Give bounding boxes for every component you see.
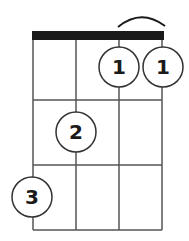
nut (32, 31, 164, 40)
barre-arc (118, 17, 165, 27)
chord-diagram: 1 1 2 3 (0, 0, 189, 241)
finger-dot: 2 (56, 112, 96, 152)
finger-dot: 1 (99, 47, 139, 87)
frets (33, 100, 162, 230)
finger-label: 3 (25, 185, 39, 209)
finger-label: 1 (156, 55, 170, 79)
finger-label: 1 (112, 55, 126, 79)
finger-label: 2 (69, 120, 83, 144)
finger-dot: 3 (12, 177, 52, 217)
finger-dot: 1 (143, 47, 183, 87)
